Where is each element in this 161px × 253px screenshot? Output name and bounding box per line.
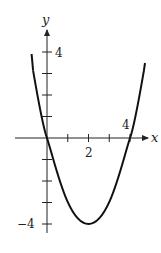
y-tick-label-neg4: −4: [17, 217, 35, 231]
parabola-curve-top-left: [32, 54, 33, 71]
y-axis-label: y: [41, 12, 50, 27]
parabola-curve: [33, 63, 145, 224]
x-tick-label-2: 2: [85, 146, 93, 160]
y-tick-label-4: 4: [55, 46, 63, 60]
x-axis-label: x: [151, 130, 159, 145]
parabola-graph: y x 4 −4 2 4: [0, 0, 161, 253]
x-tick-label-4: 4: [122, 118, 130, 132]
